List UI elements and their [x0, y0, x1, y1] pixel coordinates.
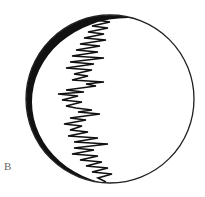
figure-panel-b [0, 0, 205, 197]
panel-label: B [4, 160, 11, 172]
zigzag-trace [58, 16, 112, 182]
